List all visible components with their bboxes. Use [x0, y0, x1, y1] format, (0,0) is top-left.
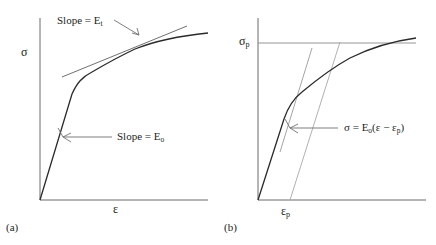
stress-strain-curve [40, 33, 208, 200]
tangent-annotation-leader [114, 20, 139, 35]
annotation-slope-elastic: Slope = Eo [117, 131, 164, 142]
panel-b-sigma-p-subscript: p [245, 40, 249, 49]
annotation-slope-elastic-prefix: Slope = E [117, 130, 160, 142]
tangent-line-Et [62, 26, 187, 77]
figure-container: σ ε Slope = Et Slope = Eo (a) [0, 0, 436, 245]
equation-subscript-1: o [368, 126, 372, 135]
offset-unload-line [290, 42, 340, 200]
panel-a: σ ε Slope = Et Slope = Eo (a) [0, 0, 218, 245]
panel-a-plot [0, 0, 218, 245]
panel-b-epsilon-p-label: εp [281, 205, 290, 217]
panel-b: σp εp σ = Eo(ε − εp) (b) [218, 0, 436, 245]
annotation-offset-equation: σ = Eo(ε − εp) [344, 122, 404, 133]
annotation-slope-tangent: Slope = Et [57, 15, 103, 26]
equation-part-1: σ = E [344, 121, 368, 133]
panel-a-y-axis-label: σ [21, 46, 27, 58]
annotation-slope-tangent-subscript: t [100, 19, 102, 28]
equation-annotation-arrowhead [290, 124, 298, 133]
equation-subscript-2: p [397, 126, 401, 135]
panel-a-x-axis-label: ε [113, 203, 118, 215]
equation-part-3: ) [400, 121, 404, 133]
panel-b-epsilon-p-subscript: p [286, 210, 290, 219]
equation-part-2: (ε − ε [372, 121, 397, 133]
panel-b-caption: (b) [224, 222, 237, 233]
panel-a-caption: (a) [6, 222, 18, 233]
stress-strain-curve [258, 38, 416, 200]
annotation-slope-elastic-subscript: o [160, 135, 164, 144]
panel-b-sigma-p-label: σp [239, 35, 250, 47]
annotation-slope-tangent-prefix: Slope = E [57, 14, 100, 26]
elastic-annotation-arrowhead [63, 133, 71, 142]
elastic-slope-line-Eo [280, 48, 312, 152]
